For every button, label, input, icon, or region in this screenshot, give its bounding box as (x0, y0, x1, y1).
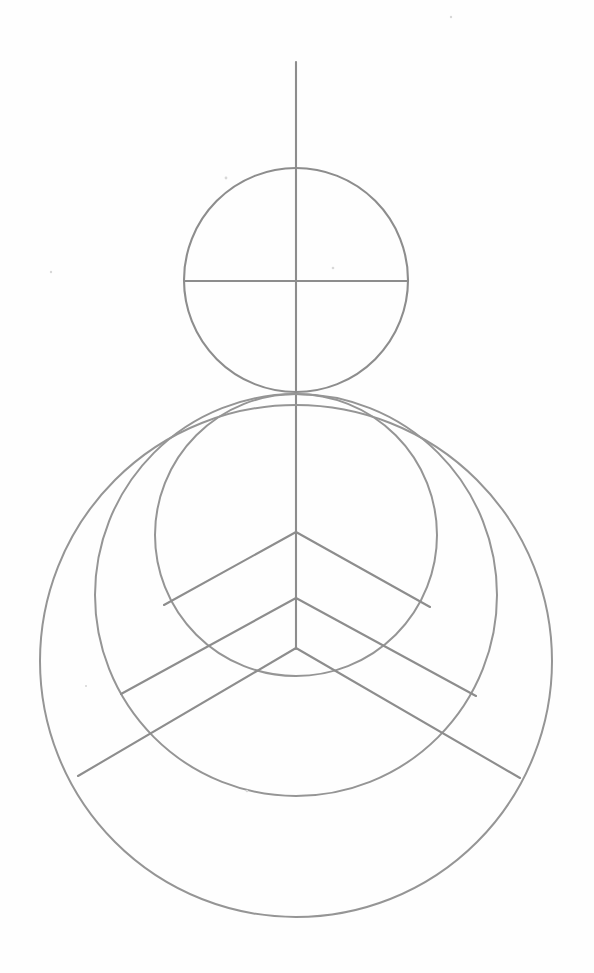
paper-speck (246, 790, 249, 793)
paper-speck (50, 271, 52, 273)
paper-speck (85, 685, 87, 687)
paper-speck (450, 16, 452, 18)
paper-speck (332, 267, 335, 270)
paper-speck (225, 177, 228, 180)
chevron-lower (78, 648, 520, 778)
diagram-canvas (0, 0, 594, 973)
geometric-figure (0, 0, 594, 973)
paper-specks (50, 16, 452, 793)
chevron-middle (121, 598, 476, 696)
